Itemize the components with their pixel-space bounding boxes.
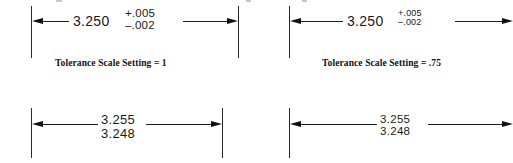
extension-line-left: [289, 108, 290, 158]
dimension-line-left-segment: [43, 124, 98, 125]
extension-line-left: [289, 6, 290, 58]
arrowhead-right-icon: [502, 121, 513, 127]
dimension-line-left-segment: [301, 21, 343, 22]
dimension-line-right-segment: [455, 21, 502, 22]
arrowhead-left-icon: [32, 121, 43, 127]
arrowhead-left-icon: [290, 121, 301, 127]
tolerance-stack: +.005 –.002: [125, 8, 155, 31]
dimension-line-right-segment: [428, 124, 502, 125]
dimension-line-right-segment: [183, 21, 227, 22]
arrowhead-right-icon: [502, 18, 513, 24]
arrowhead-left-icon: [290, 18, 301, 24]
figure-caption: Tolerance Scale Setting = .75: [322, 58, 441, 68]
arrowhead-right-icon: [227, 18, 238, 24]
dimension-figure-bottom-left: 3.255 3.248: [0, 100, 256, 163]
extension-line-right: [238, 6, 239, 58]
arrowhead-left-icon: [32, 18, 43, 24]
limit-upper-value: 3.255: [380, 113, 410, 125]
nominal-dimension-value: 3.250: [73, 13, 110, 29]
limit-upper-value: 3.255: [101, 113, 135, 127]
dimension-figure-bottom-right: 3.255 3.248: [256, 100, 513, 163]
dimension-line-right-segment: [146, 124, 211, 125]
extension-line-right: [222, 108, 223, 158]
nominal-dimension-value: 3.250: [347, 13, 384, 29]
extension-line-left: [31, 108, 32, 158]
dimension-line-left-segment: [301, 124, 377, 125]
figure-caption: Tolerance Scale Setting = 1: [55, 58, 167, 68]
extension-line-left: [31, 6, 32, 58]
dimension-line-left-segment: [43, 21, 69, 22]
tolerance-stack: +.005 –.002: [398, 9, 422, 27]
limit-lower-value: 3.248: [380, 125, 410, 137]
tolerance-lower-value: –.002: [398, 18, 422, 27]
tolerance-lower-value: –.002: [125, 20, 155, 32]
tolerance-upper-value: +.005: [125, 8, 155, 20]
arrowhead-right-icon: [211, 121, 222, 127]
dimension-figure-top-right: 3.250 +.005 –.002 Tolerance Scale Settin…: [256, 0, 513, 82]
limit-dimension-stack: 3.255 3.248: [380, 113, 410, 137]
limit-dimension-stack: 3.255 3.248: [101, 113, 135, 141]
dimension-figure-top-left: 3.250 +.005 –.002 Tolerance Scale Settin…: [0, 0, 256, 82]
limit-lower-value: 3.248: [101, 127, 135, 141]
